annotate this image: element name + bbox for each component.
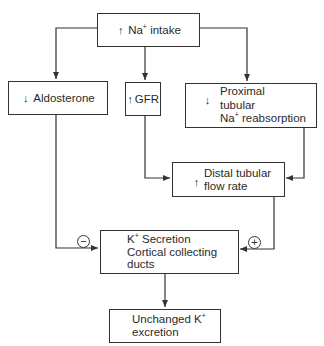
edge-proximal-to-distal (286, 127, 304, 178)
up-arrow-icon: ↑ (127, 92, 134, 106)
node-label: Aldosterone (33, 91, 94, 105)
node-na-intake: ↑ Na+ intake (97, 13, 200, 47)
up-arrow-icon: ↑ (116, 23, 125, 37)
node-label: GFR (135, 92, 159, 106)
node-label: Na+ intake (128, 23, 181, 37)
node-label: Unchanged K+ excretion (110, 310, 220, 339)
node-k-secretion: K+ Secretion Cortical collecting ducts (100, 230, 239, 274)
up-arrow-icon: ↑ (192, 175, 201, 189)
minus-sign-icon: − (77, 235, 90, 248)
node-distal-flow-rate: ↑ Distal tubular flow rate (172, 162, 285, 197)
down-arrow-icon: ↓ (21, 91, 30, 105)
node-label: K+ Secretion Cortical collecting ducts (101, 231, 238, 271)
edge-gfr-to-distal (145, 115, 170, 178)
node-gfr: ↑ GFR (125, 82, 161, 116)
edge-na-to-aldosterone (56, 28, 97, 79)
node-unchanged-excretion: Unchanged K+ excretion (109, 309, 221, 343)
edge-na-to-proximal (199, 28, 247, 81)
edge-aldosterone-to-k (56, 115, 98, 248)
node-label: Proximal tubular Na+ reabsorption (220, 85, 306, 126)
node-aldosterone: ↓ Aldosterone (8, 81, 108, 115)
node-proximal-reabsorption: ↓ Proximal tubular Na+ reabsorption (185, 83, 317, 128)
down-arrow-icon: ↓ (203, 93, 212, 107)
plus-sign-icon: + (248, 236, 261, 249)
node-label: Distal tubular flow rate (204, 167, 271, 193)
